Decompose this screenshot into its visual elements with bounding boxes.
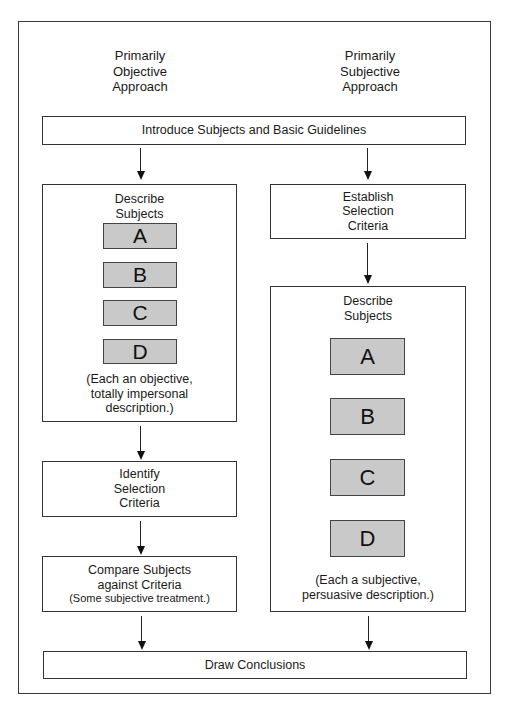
draw-conclusions-box: Draw Conclusions [43,651,467,679]
note-line: (Each a subjective, [270,573,466,588]
arrow-down-icon [138,641,146,650]
arrow-down-icon [364,171,372,180]
note-line: persuasive description.) [270,588,466,603]
left-column-heading: Primarily Objective Approach [80,48,200,95]
heading-line: Primarily [308,48,432,64]
right-describe-subjects-box: Describe Subjects [270,286,466,612]
box-line: against Criteria [97,578,181,593]
box-line: Criteria [348,219,388,234]
box-title-line: Describe [43,192,236,207]
arrow-down-icon [365,641,373,650]
arrow-shaft [367,148,368,172]
arrow-down-icon [364,275,372,284]
box-title-line: Subjects [43,207,236,222]
right-column-heading: Primarily Subjective Approach [308,48,432,95]
box-title-line: Subjects [271,309,465,324]
left-subject-c: C [103,300,177,326]
note-line: totally impersonal [42,387,237,402]
box-title-line: Describe [271,294,465,309]
right-subject-b: B [330,398,405,435]
conclusion-label: Draw Conclusions [205,658,306,673]
arrow-shaft [140,521,141,547]
intro-box: Introduce Subjects and Basic Guidelines [42,116,466,145]
left-describe-note: (Each an objective, totally impersonal d… [42,372,237,416]
arrow-shaft [140,426,141,452]
left-subject-b: B [103,262,177,288]
box-line: Selection [114,482,165,497]
compare-subjects-box: Compare Subjects against Criteria (Some … [42,556,237,612]
arrow-shaft [368,616,369,642]
right-subject-d: D [330,520,405,557]
arrow-shaft [367,243,368,276]
heading-line: Approach [80,79,200,95]
arrow-shaft [140,148,141,172]
establish-criteria-box: Establish Selection Criteria [270,184,466,239]
box-line: Selection [342,204,393,219]
box-line: Compare Subjects [88,563,191,578]
right-describe-note: (Each a subjective, persuasive descripti… [270,573,466,602]
note-line: (Each an objective, [42,372,237,387]
arrow-down-icon [137,546,145,555]
arrow-down-icon [137,451,145,460]
note-line: description.) [42,401,237,416]
arrow-shaft [141,616,142,642]
box-line: Identify [119,467,159,482]
box-line: Criteria [119,496,159,511]
heading-line: Primarily [80,48,200,64]
identify-criteria-box: Identify Selection Criteria [42,461,237,517]
heading-line: Subjective [308,64,432,80]
right-subject-c: C [330,459,405,496]
arrow-down-icon [137,171,145,180]
heading-line: Objective [80,64,200,80]
left-subject-a: A [103,223,177,249]
left-subject-d: D [103,339,177,364]
heading-line: Approach [308,79,432,95]
right-subject-a: A [330,338,405,375]
intro-label: Introduce Subjects and Basic Guidelines [142,123,366,138]
box-line: Establish [343,190,394,205]
compare-note: (Some subjective treatment.) [69,592,210,605]
